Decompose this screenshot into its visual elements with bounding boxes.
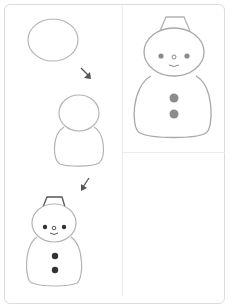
step-1-head <box>28 19 78 61</box>
arrow-down-right-icon <box>81 68 91 79</box>
finished-snowman <box>134 17 211 138</box>
step-3-snowman <box>27 197 82 286</box>
arrow-down-left-icon <box>81 178 89 191</box>
step-2-figure <box>54 95 103 166</box>
